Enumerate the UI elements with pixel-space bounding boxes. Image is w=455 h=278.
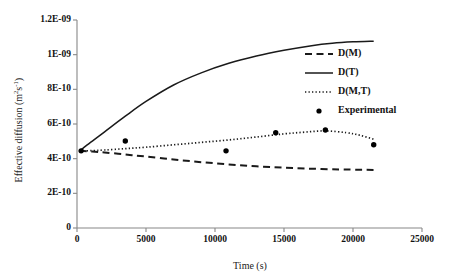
axis-lines xyxy=(77,20,422,228)
series-line-dm xyxy=(80,151,374,170)
y-tick-label: 1.2E-09 xyxy=(11,14,71,24)
data-point-marker xyxy=(273,130,278,135)
data-point-marker xyxy=(78,148,83,153)
x-tick-label: 5000 xyxy=(116,234,176,244)
x-axis-title: Time (s) xyxy=(180,260,320,271)
chart-figure: 02E-104E-106E-108E-101E-091.2E-09 050001… xyxy=(0,0,455,278)
legend-marker-sample xyxy=(316,108,321,113)
legend-label-dt: D(T) xyxy=(338,66,359,77)
y-tick-label: 0 xyxy=(11,222,71,232)
data-point-marker xyxy=(323,127,328,132)
y-axis-title: Effective diffusion (m2s-1) xyxy=(12,50,24,210)
data-point-marker xyxy=(371,142,376,147)
x-tick-marks xyxy=(77,228,422,232)
x-tick-label: 10000 xyxy=(185,234,245,244)
x-tick-label: 15000 xyxy=(254,234,314,244)
data-point-marker xyxy=(223,148,228,153)
data-point-marker xyxy=(123,138,128,143)
legend-label-experimental: Experimental xyxy=(338,104,396,115)
legend-label-dm: D(M) xyxy=(338,47,361,58)
legend-sample-lines xyxy=(305,54,333,114)
x-tick-label: 25000 xyxy=(392,234,452,244)
x-tick-label: 20000 xyxy=(323,234,383,244)
data-series-layer xyxy=(78,41,376,170)
y-tick-marks xyxy=(73,20,77,228)
x-tick-label: 0 xyxy=(47,234,107,244)
series-line-dt xyxy=(80,41,374,151)
legend-label-dmt: D(M,T) xyxy=(338,85,371,96)
